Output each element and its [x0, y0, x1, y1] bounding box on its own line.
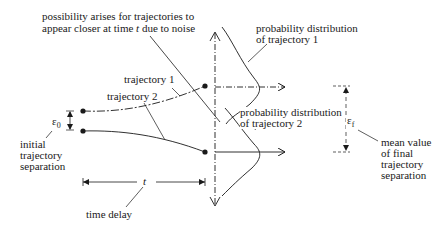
trajectory-2-label: trajectory 2	[107, 91, 157, 102]
noise-note-prefix: appear closer at time	[42, 22, 136, 34]
trajectory-1-end-dot	[202, 83, 207, 88]
time-delay-label: time delay	[86, 209, 132, 220]
distribution-1-label: probability distribution of trajectory 1	[256, 23, 358, 45]
trajectory-2-path	[83, 131, 205, 152]
time-axis	[210, 32, 220, 206]
epsilon0-label: ε0	[52, 116, 61, 131]
trajectory-2-start-dot	[80, 128, 85, 133]
final-separation-label: mean value of final trajectory separatio…	[381, 137, 431, 181]
epsilon0-dimension	[66, 111, 74, 130]
epsilonf-sub: f	[352, 120, 355, 129]
diagram-canvas	[0, 0, 448, 232]
noise-note-line2: appear closer at time t due to noise	[42, 23, 195, 34]
distribution-2-line2: of trajectory 2	[240, 118, 342, 129]
epsilon0-sub: 0	[57, 121, 61, 130]
epsilonf-label: εf	[346, 115, 355, 130]
trajectory-1-start-dot	[80, 108, 85, 113]
distribution-1-line2: of trajectory 1	[256, 34, 358, 45]
initial-separation-label: initial trajectory separation	[20, 139, 65, 172]
distribution-2-label: probability distribution of trajectory 2	[240, 107, 342, 129]
trajectory-1-label: trajectory 1	[124, 74, 174, 85]
final-separation-line4: separation	[381, 170, 431, 181]
noise-note-line1: possibility arises for trajectories to	[42, 11, 194, 22]
time-symbol: t	[143, 176, 146, 187]
initial-separation-line3: separation	[20, 161, 65, 172]
trajectory-2-end-dot	[202, 149, 207, 154]
noise-note-suffix: due to noise	[139, 22, 195, 34]
